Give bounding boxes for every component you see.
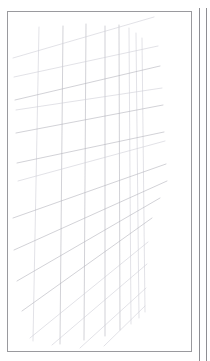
adjacent-panel-edge-left [199,8,200,361]
grid-transversal-line-0 [13,17,154,58]
screenshot-canvas: Perspective line grid sketch [0,0,210,361]
grid-transversal-line-13 [80,288,146,348]
adjacent-panel-edge-right [206,8,207,361]
grid-transversal-line-2 [15,66,160,100]
grid-vertical-line-6 [136,33,139,318]
grid-vertical-line-0 [33,27,39,341]
grid-vertical-line-5 [129,28,131,324]
grid-transversal-line-10 [22,218,152,311]
grid-transversal-line-4 [16,105,163,133]
grid-vertical-line-1 [60,26,63,344]
perspective-grid-drawing [0,0,210,361]
grid-transversal-line-11 [30,242,148,338]
vertical-lines-group [33,24,145,344]
grid-vertical-line-7 [142,38,145,312]
grid-transversal-line-14 [104,306,145,346]
grid-vertical-line-4 [119,25,120,330]
grid-transversal-line-12 [52,264,147,345]
